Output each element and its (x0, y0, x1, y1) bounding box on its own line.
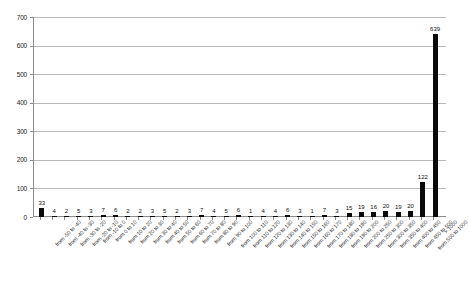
y-axis-tick-label: 600 (1, 42, 27, 49)
bar-series: 3342537622352374561446317315191620192012… (33, 17, 446, 217)
x-axis-tick-mark (64, 217, 65, 220)
x-axis-tick-mark (163, 217, 164, 220)
bar (420, 182, 425, 217)
x-axis-tick-mark (175, 217, 176, 220)
x-axis-tick-mark (101, 217, 102, 220)
x-axis-tick-mark (310, 217, 311, 220)
x-axis-tick-mark (187, 217, 188, 220)
y-axis-tick-label: 500 (1, 71, 27, 78)
x-axis-tick-mark (52, 217, 53, 220)
y-axis-tick-label: 200 (1, 156, 27, 163)
x-axis-tick-mark (114, 217, 115, 220)
bar-value-label: 20 (400, 203, 421, 210)
x-axis-tick-mark (384, 217, 385, 220)
x-axis-tick-mark (77, 217, 78, 220)
x-axis-tick-mark (298, 217, 299, 220)
x-axis: from -50 to -40from -40 to -30from -30 t… (33, 219, 446, 282)
x-axis-tick-mark (335, 217, 336, 220)
y-axis-tick-label: 300 (1, 128, 27, 135)
x-axis-tick-mark (359, 217, 360, 220)
x-axis-tick-mark (347, 217, 348, 220)
y-axis-tick-label: 0 (1, 214, 27, 221)
y-axis-tick-label: 700 (1, 14, 27, 21)
x-axis-tick-mark (200, 217, 201, 220)
x-axis-tick-mark (126, 217, 127, 220)
x-axis-tick-mark (273, 217, 274, 220)
x-axis-tick-mark (249, 217, 250, 220)
bar (433, 34, 438, 217)
x-axis-tick-mark (433, 217, 434, 220)
x-axis-tick-mark (224, 217, 225, 220)
x-axis-tick-mark (286, 217, 287, 220)
x-axis-tick-mark (396, 217, 397, 220)
x-axis-tick-mark (421, 217, 422, 220)
bar-value-label: 33 (31, 200, 52, 207)
x-axis-tick-mark (212, 217, 213, 220)
y-axis-tick-mark (30, 217, 33, 218)
bar-value-label: 122 (412, 174, 433, 181)
x-axis-tick-mark (138, 217, 139, 220)
x-axis-tick-mark (40, 217, 41, 220)
x-axis-tick-mark (372, 217, 373, 220)
y-axis-tick-label: 100 (1, 185, 27, 192)
x-axis-tick-mark (150, 217, 151, 220)
y-axis-tick-label: 400 (1, 99, 27, 106)
x-axis-tick-mark (89, 217, 90, 220)
x-axis-tick-mark (261, 217, 262, 220)
x-axis-tick-mark (409, 217, 410, 220)
x-axis-tick-mark (323, 217, 324, 220)
x-axis-tick-mark (236, 217, 237, 220)
bar-value-label: 639 (425, 26, 446, 33)
